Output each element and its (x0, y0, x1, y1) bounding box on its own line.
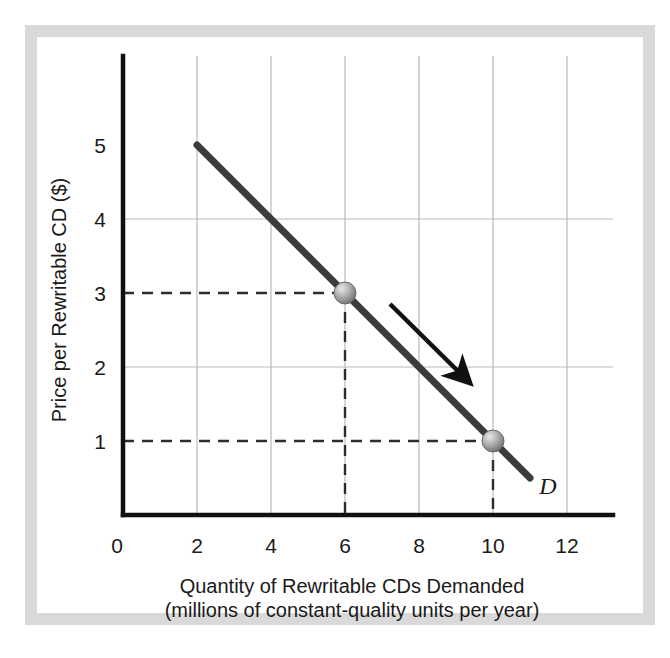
movement-arrow (390, 304, 470, 383)
y-axis-title: Price per Rewritable CD ($) (48, 178, 70, 423)
y-tick-4: 4 (94, 208, 106, 231)
y-tick-labels: 5 4 3 2 1 (94, 134, 106, 453)
x-tick-12: 12 (555, 534, 578, 557)
x-tick-10: 10 (481, 534, 504, 557)
x-tick-2: 2 (191, 534, 203, 557)
data-point-a (334, 282, 356, 304)
guide-lines (123, 293, 493, 515)
x-tick-0: 0 (111, 534, 123, 557)
x-axis-title-line2: (millions of constant-quality units per … (165, 599, 540, 621)
x-tick-labels: 0 2 4 6 8 10 12 (111, 534, 579, 557)
y-tick-5: 5 (94, 134, 106, 157)
demand-chart: D 5 4 3 2 1 0 2 4 6 8 10 12 Quantity of … (0, 0, 670, 658)
data-point-b (482, 430, 504, 452)
demand-curve-label: D (538, 473, 556, 499)
x-tick-8: 8 (413, 534, 425, 557)
x-tick-6: 6 (339, 534, 351, 557)
x-tick-4: 4 (265, 534, 277, 557)
demand-curve-line (197, 145, 530, 478)
y-tick-3: 3 (94, 282, 106, 305)
x-axis-title-line1: Quantity of Rewritable CDs Demanded (180, 575, 525, 597)
y-tick-2: 2 (94, 356, 106, 379)
demand-curve-figure: D 5 4 3 2 1 0 2 4 6 8 10 12 Quantity of … (0, 0, 670, 658)
grid-lines (123, 56, 613, 515)
y-tick-1: 1 (94, 430, 106, 453)
